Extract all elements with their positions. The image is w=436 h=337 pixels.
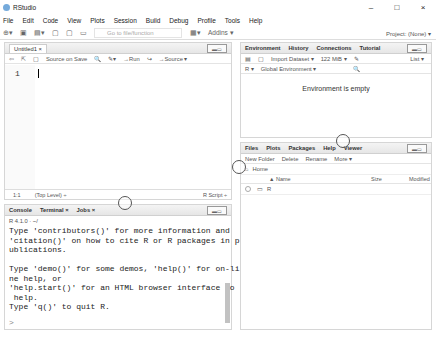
- tab-files[interactable]: Files: [245, 145, 258, 151]
- col-modified[interactable]: Modified: [409, 176, 430, 182]
- tab-tutorial[interactable]: Tutorial: [360, 45, 381, 51]
- line-gutter: [5, 65, 35, 189]
- menu-build[interactable]: Build: [146, 17, 160, 24]
- title-bar: RStudio – □ ×: [0, 0, 436, 14]
- menu-help[interactable]: Help: [249, 17, 262, 24]
- click-indicator: [118, 196, 132, 210]
- source-button[interactable]: →Source ▾: [159, 56, 188, 62]
- wand-icon[interactable]: ✎▾: [108, 56, 116, 62]
- pane-minmax-button[interactable]: ▬▭: [207, 44, 227, 53]
- file-name[interactable]: R: [267, 186, 271, 192]
- pane-minmax-button[interactable]: ▬▭: [207, 206, 227, 215]
- breadcrumb: ⌂ Home: [241, 164, 431, 175]
- import-dataset-button[interactable]: Import Dataset ▾: [271, 56, 314, 62]
- code-editor[interactable]: 1: [5, 65, 231, 189]
- menu-plots[interactable]: Plots: [90, 17, 104, 24]
- editor-statusbar: 1:1 (Top Level) ÷ R Script ÷: [5, 189, 231, 199]
- project-menu[interactable]: Project: (None) ▾: [386, 30, 431, 37]
- tab-packages[interactable]: Packages: [288, 145, 315, 151]
- scope-selector[interactable]: (Top Level) ÷: [35, 192, 67, 198]
- delete-button[interactable]: Delete: [282, 156, 299, 162]
- console-tabstrip: Console Terminal × Jobs × ▬▭: [5, 205, 231, 216]
- new-folder-button[interactable]: New Folder: [245, 156, 275, 162]
- console-prompt[interactable]: >: [5, 318, 231, 328]
- col-size[interactable]: Size: [371, 176, 382, 182]
- save-workspace-icon[interactable]: ▢: [258, 56, 264, 62]
- menu-file[interactable]: File: [3, 17, 13, 24]
- maximize-button[interactable]: □: [384, 0, 410, 14]
- env-toolbar: ▤ ▢ Import Dataset ▾ 122 MiB ▾ ✎ List ▾: [241, 54, 431, 64]
- show-window-icon[interactable]: ⇱: [21, 56, 26, 62]
- menu-profile[interactable]: Profile: [197, 17, 215, 24]
- language-selector[interactable]: R ▾: [245, 66, 254, 72]
- global-env-selector[interactable]: Global Environment ▾: [261, 66, 317, 72]
- open-icon[interactable]: ▤: [245, 56, 251, 62]
- menu-code[interactable]: Code: [43, 17, 59, 24]
- click-indicator: [336, 134, 350, 148]
- rename-button[interactable]: Rename: [305, 156, 327, 162]
- menu-edit[interactable]: Edit: [22, 17, 33, 24]
- menu-session[interactable]: Session: [114, 17, 137, 24]
- main-toolbar: ⊕▾ ▣ ▤▾ ▢ ▢ ▭ Go to file/function ▦▾ Add…: [0, 26, 436, 40]
- env-tabstrip: Environment History Connections Tutorial…: [241, 43, 431, 54]
- env-scope-bar: R ▾ Global Environment ▾ 🔍: [241, 64, 431, 74]
- addins-button[interactable]: Addins ▾: [208, 29, 234, 37]
- open-file-icon[interactable]: ▤▾: [34, 29, 45, 37]
- tab-jobs[interactable]: Jobs ×: [77, 207, 96, 213]
- memory-usage[interactable]: 122 MiB ▾: [321, 56, 347, 62]
- file-type-selector[interactable]: R Script ÷: [203, 192, 227, 198]
- line-number: 1: [15, 69, 20, 78]
- cursor-position: 1:1: [13, 192, 21, 198]
- menu-view[interactable]: View: [67, 17, 81, 24]
- editor-toolbar: ⇦ ⇱ ▢ Source on Save 🔍 ✎▾ →Run ↪ →Source…: [5, 54, 231, 64]
- grid-icon[interactable]: ▦▾: [190, 29, 201, 37]
- open-project-icon[interactable]: ▣: [20, 29, 27, 37]
- tab-connections[interactable]: Connections: [316, 45, 351, 51]
- editor-pane: Untitled1 × ▬▭ ⇦ ⇱ ▢ Source on Save 🔍 ✎▾…: [4, 42, 232, 200]
- tab-terminal[interactable]: Terminal ×: [40, 207, 69, 213]
- broom-icon[interactable]: ✎: [354, 56, 359, 62]
- rstudio-logo-icon: [3, 4, 10, 11]
- files-toolbar: New Folder Delete Rename More ▾: [241, 154, 431, 164]
- file-row[interactable]: ▭ R: [241, 184, 431, 195]
- more-button[interactable]: More ▾: [334, 156, 352, 162]
- environment-pane: Environment History Connections Tutorial…: [240, 42, 432, 138]
- new-file-icon[interactable]: ⊕▾: [3, 29, 13, 37]
- tab-help[interactable]: Help: [323, 145, 336, 151]
- col-name[interactable]: ▲ Name: [269, 176, 291, 182]
- console-scrollbar[interactable]: [225, 283, 230, 323]
- rerun-button[interactable]: ↪: [147, 56, 152, 62]
- tab-plots[interactable]: Plots: [266, 145, 280, 151]
- window-title: RStudio: [13, 4, 36, 11]
- tab-console[interactable]: Console: [9, 207, 32, 213]
- menu-debug[interactable]: Debug: [169, 17, 188, 24]
- goto-file-input[interactable]: Go to file/function: [94, 28, 182, 38]
- save-all-icon[interactable]: ▢: [66, 29, 73, 37]
- back-icon[interactable]: ⇦: [9, 56, 14, 62]
- console-output: Type 'contributors()' for more informati…: [5, 226, 231, 312]
- text-cursor: [38, 69, 39, 78]
- search-icon[interactable]: 🔍: [94, 56, 101, 62]
- list-view-button[interactable]: List ▾: [410, 56, 424, 62]
- pane-minmax-button[interactable]: ▬▭: [407, 44, 427, 53]
- pane-minmax-button[interactable]: ▬▭: [407, 144, 427, 153]
- tab-environment[interactable]: Environment: [245, 45, 280, 51]
- source-on-save-checkbox[interactable]: Source on Save: [46, 56, 87, 62]
- env-search-icon[interactable]: 🔍: [353, 66, 360, 72]
- run-button[interactable]: →Run: [123, 56, 139, 62]
- files-pane: Files Plots Packages Help Viewer ▬▭ New …: [240, 142, 432, 330]
- click-indicator: [232, 160, 246, 174]
- menu-bar: File Edit Code View Plots Session Build …: [0, 14, 436, 26]
- tab-untitled1[interactable]: Untitled1 ×: [9, 44, 47, 53]
- menu-tools[interactable]: Tools: [225, 17, 240, 24]
- folder-icon: ▭: [257, 186, 263, 192]
- console-header: R 4.1.0 · ~/: [5, 216, 231, 226]
- breadcrumb-home[interactable]: Home: [253, 166, 268, 172]
- close-button[interactable]: ×: [410, 0, 436, 14]
- tab-history[interactable]: History: [288, 45, 308, 51]
- print-icon[interactable]: ▭: [80, 29, 87, 37]
- row-checkbox[interactable]: [245, 186, 251, 192]
- save-doc-icon[interactable]: ▢: [33, 56, 39, 62]
- minimize-button[interactable]: –: [358, 0, 384, 14]
- save-icon[interactable]: ▢: [52, 29, 59, 37]
